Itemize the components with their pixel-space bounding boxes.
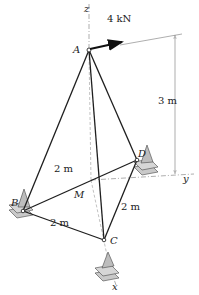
z-axis-label: z bbox=[83, 3, 90, 14]
member-AB bbox=[23, 50, 89, 211]
x-axis-label: x bbox=[112, 281, 118, 292]
joint-C bbox=[102, 238, 106, 242]
dimension-extension-line bbox=[120, 34, 182, 45]
joint-B bbox=[21, 209, 25, 213]
force-label: 4 kN bbox=[107, 13, 132, 24]
point-B-label: B bbox=[10, 197, 18, 208]
point-D-label: D bbox=[137, 148, 146, 159]
force-arrow bbox=[90, 42, 122, 49]
x-axis-hidden bbox=[91, 180, 108, 260]
BC-dimension-label: 2 m bbox=[50, 217, 70, 228]
tripod-diagram: z 4 kN A 3 m 2 m D y B M 2 m 2 m C x bbox=[0, 0, 199, 295]
CD-dimension-label: 2 m bbox=[121, 201, 141, 212]
height-dimension-label: 3 m bbox=[158, 95, 178, 106]
support-C bbox=[95, 252, 119, 281]
y-axis-label: y bbox=[182, 173, 189, 184]
point-M-label: M bbox=[73, 189, 85, 200]
point-C-label: C bbox=[110, 235, 118, 246]
point-A-label: A bbox=[72, 44, 80, 55]
BD-dimension-label: 2 m bbox=[54, 163, 74, 174]
